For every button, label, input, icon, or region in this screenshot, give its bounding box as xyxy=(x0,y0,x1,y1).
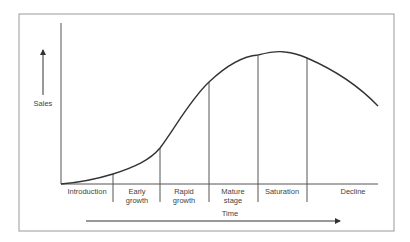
product-life-cycle-diagram: Sales Time Introduction Early growth Rap… xyxy=(0,0,410,242)
stage-label-rapid-growth-2: growth xyxy=(173,196,196,205)
stage-label-early-growth-1: Early xyxy=(128,187,145,196)
stage-label-mature-stage-1: Mature xyxy=(221,187,244,196)
stage-label-saturation: Saturation xyxy=(265,187,299,196)
stage-label-mature-stage-2: stage xyxy=(224,196,242,205)
stage-label-introduction: Introduction xyxy=(67,187,106,196)
x-axis-label: Time xyxy=(222,209,238,218)
stage-label-rapid-growth-1: Rapid xyxy=(174,187,194,196)
sales-curve xyxy=(61,52,378,184)
diagram-frame xyxy=(19,14,394,231)
y-axis-label: Sales xyxy=(34,99,53,108)
stage-label-decline: Decline xyxy=(340,187,365,196)
stage-label-early-growth-2: growth xyxy=(126,196,149,205)
